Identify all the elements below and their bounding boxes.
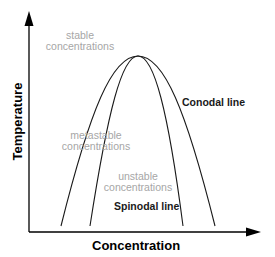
x-axis-title: Concentration (92, 238, 180, 253)
metastable-region-label: metastable concentrations (56, 130, 136, 152)
conodal-line-label: Conodal line (182, 97, 262, 108)
stable-line2: concentrations (34, 41, 126, 52)
y-axis-arrow-icon (25, 11, 34, 26)
spinodal-line-label: Spinodal line (114, 201, 194, 212)
unstable-region-label: unstable concentrations (98, 171, 178, 193)
metastable-line2: concentrations (56, 141, 136, 152)
stable-region-label: stable concentrations (34, 30, 126, 52)
y-axis-title: Temperature (10, 77, 25, 167)
x-axis-arrow-icon (246, 228, 261, 237)
unstable-line2: concentrations (98, 182, 178, 193)
